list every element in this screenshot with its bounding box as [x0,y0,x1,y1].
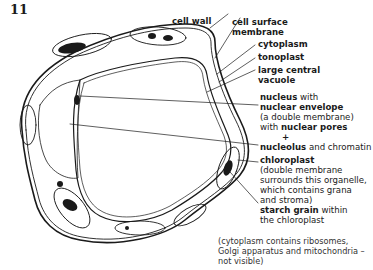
label-starch-grain: starch grain within the chloroplast [260,205,348,225]
nucleus-shape [74,95,80,105]
label-nucleus: nucleus with nuclear envelope (a double … [260,92,371,152]
label-large-central-vacuole: large centralvacuole [258,65,320,85]
label-cell-wall: cell wall [172,16,211,26]
label-tonoplast: tonoplast [258,52,304,62]
label-cytoplasm: cytoplasm [258,39,308,49]
footnote: (cytoplasm contains ribosomes, Golgi app… [218,236,365,266]
cell-wall-outline [22,24,249,243]
label-chloroplast: chloroplast (double membrane surrounds t… [260,155,367,205]
label-cell-surface-membrane: cell surfacemembrane [232,17,288,37]
